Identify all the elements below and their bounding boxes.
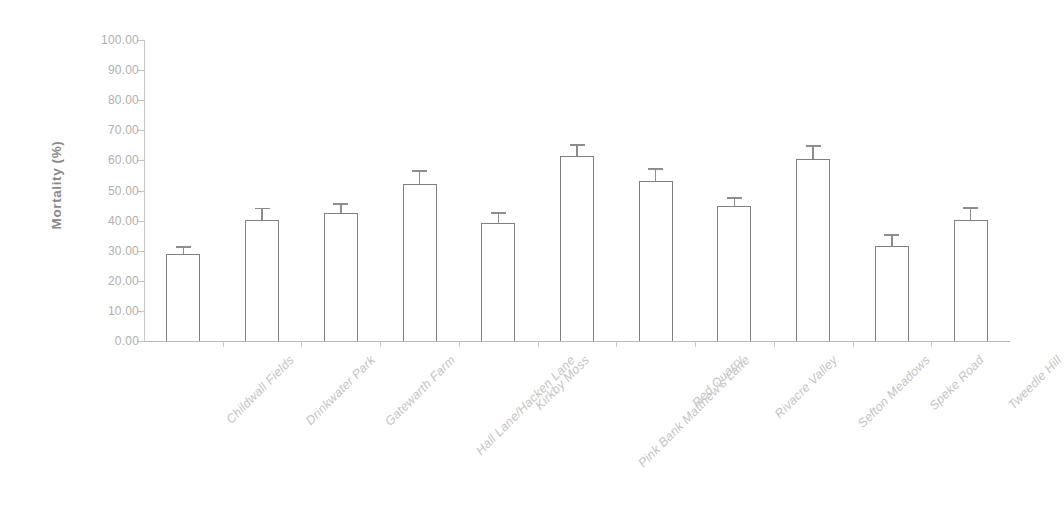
error-bar-cap xyxy=(963,207,978,209)
bar[interactable] xyxy=(639,181,673,341)
error-bar-cap xyxy=(176,246,191,248)
x-axis-tick-mark xyxy=(459,341,460,347)
x-axis-tick-mark xyxy=(616,341,617,347)
bar[interactable] xyxy=(403,184,437,341)
error-bar-cap xyxy=(333,203,348,205)
error-bar-cap xyxy=(884,234,899,236)
y-axis-tick-label: 20.00 xyxy=(108,274,139,288)
y-axis-tick-label: 30.00 xyxy=(108,244,139,258)
y-axis-tick-label: 60.00 xyxy=(108,153,139,167)
bar-group[interactable] xyxy=(403,40,437,341)
y-axis-tick-label: 90.00 xyxy=(108,63,139,77)
error-bar-stem xyxy=(183,248,185,254)
bar[interactable] xyxy=(245,220,279,341)
error-bar-stem xyxy=(812,147,814,159)
error-bar-stem xyxy=(655,170,657,181)
error-bar-stem xyxy=(261,209,263,220)
x-axis-tick-label: Speke Road xyxy=(927,353,987,413)
bar-group[interactable] xyxy=(324,40,358,341)
bar-group[interactable] xyxy=(639,40,673,341)
bar-group[interactable] xyxy=(875,40,909,341)
x-axis-tick-mark xyxy=(853,341,854,347)
x-axis-tick-mark xyxy=(380,341,381,347)
error-bar-cap xyxy=(491,212,506,214)
bar[interactable] xyxy=(717,206,751,341)
error-bar-cap xyxy=(255,208,270,210)
bar[interactable] xyxy=(796,159,830,341)
bar-group[interactable] xyxy=(796,40,830,341)
x-axis-tick-label: Rivacre Valley xyxy=(773,353,841,421)
y-axis-tick-label: 80.00 xyxy=(108,93,139,107)
error-bar-cap xyxy=(806,145,821,147)
x-axis-tick-label: Hall Lane/Hacken Lane xyxy=(473,353,578,458)
error-bar-stem xyxy=(498,214,500,223)
x-axis-tick-label: Gatewarth Farm xyxy=(382,353,458,429)
error-bar-cap xyxy=(412,170,427,172)
bar-group[interactable] xyxy=(245,40,279,341)
y-axis-tick-label: 40.00 xyxy=(108,214,139,228)
y-axis-tick-label: 50.00 xyxy=(108,184,139,198)
bar-group[interactable] xyxy=(717,40,751,341)
plot-area: 0.0010.0020.0030.0040.0050.0060.0070.008… xyxy=(144,40,1010,341)
y-axis-line xyxy=(144,40,145,341)
x-axis-line xyxy=(143,341,1010,342)
bar-group[interactable] xyxy=(560,40,594,341)
x-axis-tick-mark xyxy=(223,341,224,347)
y-axis-tick-label: 70.00 xyxy=(108,123,139,137)
x-axis-tick-mark xyxy=(774,341,775,347)
x-axis-tick-label: Childwall Fields xyxy=(224,353,298,427)
bar[interactable] xyxy=(481,223,515,341)
y-axis-tick-label: 10.00 xyxy=(108,304,139,318)
y-axis-tick-label: 100.00 xyxy=(101,33,139,47)
bar[interactable] xyxy=(875,246,909,341)
bar-group[interactable] xyxy=(481,40,515,341)
x-axis-tick-label: Sefton Meadows xyxy=(855,353,933,431)
bar-group[interactable] xyxy=(166,40,200,341)
bar[interactable] xyxy=(954,220,988,341)
y-axis-tick-label: 0.00 xyxy=(115,334,139,348)
error-bar-stem xyxy=(576,146,578,156)
error-bar-stem xyxy=(734,199,736,206)
x-axis-tick-mark xyxy=(538,341,539,347)
bar[interactable] xyxy=(560,156,594,341)
x-axis-tick-label: Red Quarry xyxy=(689,353,746,410)
x-axis-tick-mark xyxy=(301,341,302,347)
bar[interactable] xyxy=(324,213,358,341)
error-bar-stem xyxy=(970,209,972,220)
error-bar-stem xyxy=(419,172,421,185)
error-bar-cap xyxy=(648,168,663,170)
x-axis-tick-mark xyxy=(931,341,932,347)
y-axis-title: Mortality (%) xyxy=(46,70,68,300)
x-axis-tick-mark xyxy=(695,341,696,347)
error-bar-stem xyxy=(891,236,893,246)
x-axis-tick-label: Tweedle Hill xyxy=(1005,353,1064,412)
error-bar-cap xyxy=(570,144,585,146)
bar-group[interactable] xyxy=(954,40,988,341)
bar[interactable] xyxy=(166,254,200,341)
error-bar-cap xyxy=(727,197,742,199)
x-axis-tick-label: Drinkwater Park xyxy=(303,353,378,428)
error-bar-stem xyxy=(340,205,342,213)
